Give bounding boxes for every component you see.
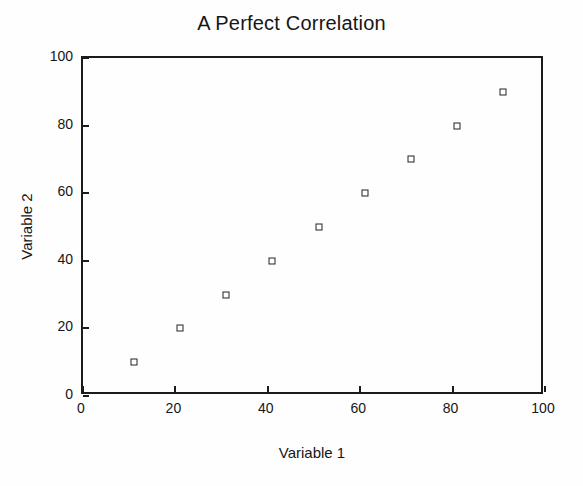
y-axis-tick-label: 80 — [33, 116, 73, 132]
x-axis-tick — [174, 386, 176, 392]
y-axis-title: Variable 2 — [18, 147, 35, 307]
scatter-chart: A Perfect Correlation 020406080100 02040… — [0, 0, 583, 486]
data-point-marker — [130, 359, 137, 366]
x-axis-tick — [267, 386, 269, 392]
data-point-marker — [500, 88, 507, 95]
x-axis-tick-label: 100 — [513, 400, 573, 416]
y-axis-tick — [83, 125, 89, 127]
data-point-marker — [269, 257, 276, 264]
chart-title: A Perfect Correlation — [0, 12, 583, 35]
x-axis-tick-label: 20 — [143, 400, 203, 416]
data-point-marker — [315, 224, 322, 231]
y-axis-tick-label: 20 — [33, 318, 73, 334]
y-axis-tick — [83, 57, 89, 59]
y-axis-tick — [83, 192, 89, 194]
x-axis-tick-labels: 020406080100 — [81, 400, 543, 424]
x-axis-title: Variable 1 — [81, 444, 543, 461]
y-axis-tick — [83, 260, 89, 262]
data-point-marker — [454, 122, 461, 129]
data-point-marker — [361, 190, 368, 197]
x-axis-tick-label: 80 — [421, 400, 481, 416]
data-point-marker — [177, 325, 184, 332]
x-axis-tick — [544, 386, 546, 392]
x-axis-tick — [82, 386, 84, 392]
x-axis-tick-label: 60 — [328, 400, 388, 416]
x-axis-tick — [452, 386, 454, 392]
x-axis-tick-label: 40 — [236, 400, 296, 416]
plot-area — [83, 58, 541, 392]
y-axis-tick — [83, 395, 89, 397]
x-axis-tick-label: 0 — [51, 400, 111, 416]
y-axis-tick-label: 60 — [33, 183, 73, 199]
plot-frame — [81, 56, 543, 394]
y-axis-tick-label: 40 — [33, 251, 73, 267]
data-point-marker — [223, 291, 230, 298]
y-axis-tick — [83, 327, 89, 329]
x-axis-tick — [359, 386, 361, 392]
y-axis-tick-label: 100 — [33, 48, 73, 64]
data-point-marker — [408, 156, 415, 163]
